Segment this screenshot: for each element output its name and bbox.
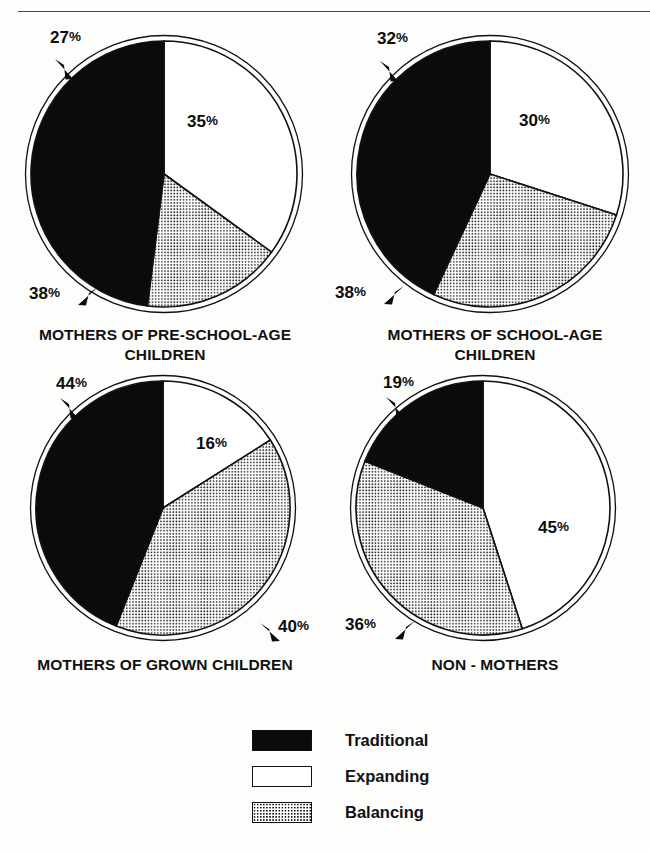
pointer-balancing-icon	[391, 619, 417, 643]
caption-grown-children: MOTHERS OF GROWN CHILDREN	[10, 655, 320, 675]
label-expanding-non-mothers: 45%	[538, 518, 569, 538]
label-balancing-grown: 40%	[278, 617, 309, 637]
pointer-traditional-icon	[384, 395, 410, 423]
pointer-balancing-icon	[380, 284, 406, 308]
label-balancing-school: 38%	[335, 283, 366, 303]
caption-school-age: MOTHERS OF SCHOOL-AGE CHILDREN	[340, 325, 650, 365]
solid-black-swatch-icon	[252, 730, 312, 751]
pie-chart-school-age	[350, 31, 632, 317]
legend-label-expanding: Expanding	[345, 767, 429, 786]
caption-pre-school-age: MOTHERS OF PRE-SCHOOL-AGE CHILDREN	[10, 325, 320, 365]
figure-root: 27% 35% 38% MOTHERS OF PRE-SCHOOL-AGE CH…	[0, 0, 650, 852]
label-expanding-pre-school: 35%	[187, 112, 218, 132]
empty-white-swatch-icon	[252, 766, 312, 787]
legend-item-traditional: Traditional	[252, 722, 429, 758]
legend-item-expanding: Expanding	[252, 758, 429, 794]
pie-chart-non-mothers	[348, 371, 620, 645]
pointer-balancing-icon	[74, 285, 100, 309]
label-traditional-pre-school: 27%	[50, 28, 81, 48]
pointer-traditional-icon	[58, 396, 84, 424]
label-balancing-non-mothers: 36%	[345, 615, 376, 635]
pie-chart-grown-children	[28, 371, 300, 645]
header-rule	[18, 11, 650, 12]
pie-chart-pre-school-age	[24, 31, 306, 317]
slice-traditional	[31, 41, 164, 306]
label-expanding-school: 30%	[519, 111, 550, 131]
caption-non-mothers: NON - MOTHERS	[340, 655, 650, 675]
label-traditional-non-mothers: 19%	[383, 373, 414, 393]
label-traditional-grown: 44%	[56, 374, 87, 394]
legend-label-balancing: Balancing	[345, 803, 424, 822]
legend-item-balancing: Balancing	[252, 794, 429, 830]
legend-label-traditional: Traditional	[345, 731, 428, 750]
label-traditional-school: 32%	[377, 29, 408, 49]
label-balancing-pre-school: 38%	[29, 284, 60, 304]
pointer-traditional-icon	[53, 57, 79, 85]
label-expanding-grown: 16%	[196, 434, 227, 454]
dotted-gray-swatch-icon	[252, 802, 312, 823]
legend: Traditional Expanding Balancing	[252, 722, 429, 830]
pointer-traditional-icon	[378, 59, 404, 87]
